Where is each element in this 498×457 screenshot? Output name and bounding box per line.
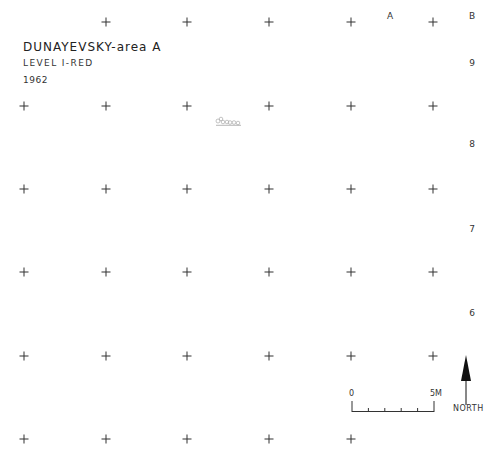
scale-end-label: 5M (430, 389, 442, 398)
grid-cross-icon (429, 185, 438, 194)
grid-cross-icon (347, 18, 356, 27)
grid-cross-icon (183, 352, 192, 361)
scale-bar-graphic (351, 395, 441, 425)
grid-cross-icon (183, 102, 192, 111)
grid-cross-icon (20, 102, 29, 111)
column-label-a: A (387, 11, 393, 21)
grid-cross-icon (183, 435, 192, 444)
grid-cross-icon (347, 185, 356, 194)
column-label-b: B (469, 11, 475, 21)
grid-cross-icon (102, 102, 111, 111)
grid-cross-icon (20, 435, 29, 444)
grid-cross-icon (429, 18, 438, 27)
row-label-9: 9 (469, 58, 475, 68)
grid-cross-icon (102, 185, 111, 194)
scale-start-label: 0 (349, 389, 354, 398)
grid-cross-icon (102, 18, 111, 27)
grid-cross-icon (265, 18, 274, 27)
grid-cross-icon (265, 268, 274, 277)
row-label-7: 7 (469, 224, 475, 234)
year-label: 1962 (23, 75, 48, 85)
stone-cluster-icon (215, 116, 242, 126)
grid-cross-icon (20, 185, 29, 194)
grid-cross-icon (265, 102, 274, 111)
grid-cross-icon (20, 352, 29, 361)
grid-cross-icon (265, 435, 274, 444)
north-arrow-icon (455, 355, 477, 405)
grid-cross-icon (102, 435, 111, 444)
level-label: LEVEL I-RED (23, 58, 94, 68)
grid-cross-icon (20, 268, 29, 277)
grid-cross-icon (183, 18, 192, 27)
north-label: NORTH (453, 404, 484, 413)
grid-cross-icon (429, 268, 438, 277)
grid-cross-icon (265, 185, 274, 194)
scale-bar: 0 5M (351, 395, 441, 429)
grid-cross-icon (183, 185, 192, 194)
north-arrow: NORTH (455, 355, 477, 415)
grid-cross-icon (102, 268, 111, 277)
grid-cross-icon (347, 102, 356, 111)
row-label-8: 8 (469, 139, 475, 149)
grid-cross-icon (183, 268, 192, 277)
grid-cross-icon (265, 352, 274, 361)
grid-cross-icon (347, 352, 356, 361)
grid-cross-icon (347, 435, 356, 444)
grid-cross-icon (347, 268, 356, 277)
row-label-6: 6 (469, 308, 475, 318)
grid-cross-icon (102, 352, 111, 361)
grid-cross-icon (429, 352, 438, 361)
grid-cross-icon (429, 102, 438, 111)
map-title: DUNAYEVSKY-area A (23, 40, 161, 54)
